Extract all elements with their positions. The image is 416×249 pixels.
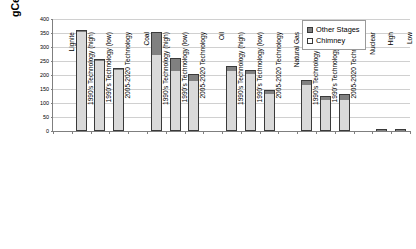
y-axis-tick-label: 0 [46,128,49,134]
x-axis-label: Nuclear [367,29,379,137]
y-axis-tick-mark [51,75,54,76]
y-axis-tick-label: 200 [40,72,49,78]
x-axis-label: 1990's Technology (high) [160,29,172,137]
chart-legend: Other StagesChimney [302,20,366,50]
x-axis-label: 1990's Technology (high) [235,29,247,137]
y-axis-tick-label: 250 [40,58,49,64]
x-axis-label: High [385,29,397,137]
x-axis-label: Low [404,29,416,137]
legend-label: Chimney [316,35,345,46]
y-axis-tick-mark [51,33,54,34]
y-axis-tick-label: 150 [40,86,49,92]
y-axis-tick-label: 100 [40,100,49,106]
y-axis-title: gCeq/kWh [2,0,28,46]
x-axis-label: 1990's Technology (high) [85,29,97,137]
y-axis-tick-label: 300 [40,44,49,50]
legend-label: Other Stages [316,24,360,35]
y-axis-tick-mark [51,61,54,62]
legend-item: Chimney [307,35,360,46]
x-axis-label: 2005-2020 Technology [197,29,209,137]
legend-swatch-icon [307,27,313,33]
y-axis-tick-mark [51,117,54,118]
y-axis-tick-mark [51,103,54,104]
x-axis-label: 2005-2020 Technology [273,29,285,137]
x-axis-label: Coal [141,29,153,137]
x-axis-label: 1990's Technology (low) [103,29,115,137]
y-axis-tick-mark [51,19,54,20]
x-axis-label: 2005-2020 Technology [122,29,134,137]
y-axis-tick-mark [51,89,54,90]
legend-swatch-icon [307,38,313,44]
y-axis-tick-label: 400 [40,16,49,22]
y-axis-tick-label: 50 [43,114,49,120]
x-axis-label: Oil [216,29,228,137]
x-axis-label: 1990's Technology (low) [254,29,266,137]
x-axis-tick-mark [53,131,54,134]
x-axis-label: 1990's Technology (low) [179,29,191,137]
legend-item: Other Stages [307,24,360,35]
y-axis-tick-mark [51,47,54,48]
chart-container: gCeq/kWh 050100150200250300350400 Lignit… [0,0,416,249]
x-axis-label: Lignite [66,29,78,137]
y-axis-tick-label: 350 [40,30,49,36]
